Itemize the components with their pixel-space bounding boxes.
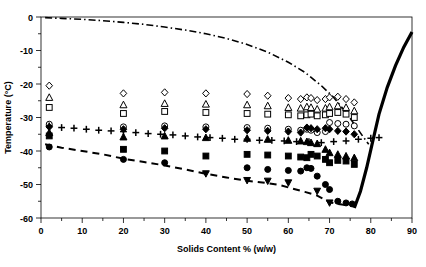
data-point-filled-circle — [120, 156, 126, 162]
data-point-filled-circle — [327, 187, 333, 193]
x-axis-title: Solids Content % (w/w) — [177, 244, 276, 254]
data-point-open-circle — [351, 123, 357, 129]
data-point-filled-square — [351, 162, 357, 168]
data-point-plus — [343, 138, 350, 145]
data-point-filled-circle — [46, 144, 52, 150]
data-point-filled-circle — [298, 168, 304, 174]
data-point-filled-square — [121, 146, 127, 152]
data-point-open-diamond — [351, 99, 358, 106]
data-point-open-diamond — [120, 90, 127, 97]
data-point-filled-circle — [335, 198, 341, 204]
data-point-open-triangle — [334, 102, 341, 109]
x-axis-tick-label: 40 — [201, 226, 211, 236]
data-point-filled-circle — [265, 166, 271, 172]
data-point-plus — [376, 134, 383, 141]
data-point-filled-square — [308, 151, 314, 157]
data-point-open-triangle — [343, 104, 350, 111]
series-filled-square — [46, 133, 357, 167]
series-filled-triangle-down — [202, 171, 332, 207]
data-point-plus — [170, 132, 177, 139]
data-point-plus — [95, 127, 102, 134]
data-point-open-triangle — [161, 100, 168, 107]
data-point-open-circle — [343, 121, 349, 127]
data-point-open-square — [285, 112, 291, 118]
data-point-open-square — [327, 111, 333, 117]
x-axis-tick-label: 60 — [283, 226, 293, 236]
data-point-open-square — [244, 111, 250, 117]
data-point-open-diamond — [46, 82, 53, 89]
data-point-open-triangle — [351, 107, 358, 114]
data-point-filled-square — [265, 152, 271, 158]
data-point-open-diamond — [343, 95, 350, 102]
data-point-filled-square — [335, 157, 341, 163]
data-point-open-square — [343, 111, 349, 117]
data-point-filled-triangle — [161, 132, 168, 139]
x-axis-tick-label: 50 — [242, 226, 252, 236]
series-plus — [46, 122, 383, 146]
data-point-open-diamond — [314, 96, 321, 103]
data-point-plus — [145, 130, 152, 137]
data-point-open-triangle — [46, 94, 53, 101]
data-point-filled-square — [244, 151, 250, 157]
data-point-open-square — [314, 113, 320, 119]
data-point-open-diamond — [285, 94, 292, 101]
x-axis-tick-label: 80 — [366, 226, 376, 236]
data-point-open-diamond — [161, 89, 168, 96]
series-filled-diamond — [46, 123, 358, 138]
data-point-filled-diamond — [343, 128, 350, 135]
chart-container: 01020304050607080900-10-20-30-40-50-60So… — [0, 0, 426, 267]
data-point-filled-diamond — [335, 127, 342, 134]
data-point-plus — [182, 133, 189, 140]
y-axis-tick-label: -30 — [20, 113, 33, 123]
data-point-filled-triangle — [351, 154, 358, 161]
data-point-filled-circle — [285, 167, 291, 173]
data-point-open-triangle — [285, 104, 292, 111]
data-point-filled-triangle — [334, 151, 341, 158]
data-point-open-diamond — [203, 90, 210, 97]
data-point-open-square — [298, 113, 304, 119]
data-point-open-triangle — [244, 101, 251, 108]
data-point-filled-square — [298, 154, 304, 160]
data-point-filled-square — [46, 133, 52, 139]
data-point-filled-square — [327, 160, 333, 166]
data-point-filled-circle — [322, 182, 328, 188]
data-point-filled-square — [314, 153, 320, 159]
data-point-open-circle — [327, 120, 333, 126]
data-point-filled-circle — [162, 160, 168, 166]
data-point-plus — [132, 129, 139, 136]
data-point-plus — [330, 138, 337, 145]
x-axis-tick-label: 90 — [407, 226, 417, 236]
x-axis-tick-label: 70 — [325, 226, 335, 236]
data-point-open-triangle — [264, 102, 271, 109]
data-point-open-square — [162, 109, 168, 115]
data-point-open-square — [203, 110, 209, 116]
data-point-open-diamond — [244, 90, 251, 97]
series-open-diamond — [46, 82, 358, 106]
data-point-open-circle — [335, 121, 341, 127]
data-point-plus — [108, 128, 115, 135]
data-point-open-square — [46, 105, 52, 111]
data-point-open-triangle — [326, 103, 333, 110]
data-point-filled-triangle — [120, 133, 127, 140]
x-axis-tick-label: 10 — [77, 226, 87, 236]
data-point-filled-diamond — [351, 131, 358, 138]
data-point-plus — [256, 137, 263, 144]
data-point-filled-triangle — [285, 137, 292, 144]
data-point-open-square — [351, 115, 357, 121]
data-point-filled-triangle-down — [285, 180, 292, 186]
data-point-plus — [58, 124, 65, 131]
data-point-open-diamond — [264, 92, 271, 99]
y-axis-tick-label: 0 — [28, 13, 33, 23]
data-point-open-triangle — [314, 106, 321, 113]
data-point-filled-triangle-down — [314, 188, 321, 194]
curve-glass-transition-curve — [45, 144, 352, 205]
data-point-open-triangle — [202, 101, 209, 108]
data-point-open-diamond — [297, 95, 304, 102]
data-point-open-triangle — [120, 101, 127, 108]
data-point-filled-circle — [308, 165, 314, 171]
x-axis-tick-label: 30 — [160, 226, 170, 236]
data-point-filled-square — [203, 153, 209, 159]
data-point-filled-square — [343, 158, 349, 164]
data-point-filled-square — [285, 153, 291, 159]
y-axis-tick-label: -10 — [20, 46, 33, 56]
